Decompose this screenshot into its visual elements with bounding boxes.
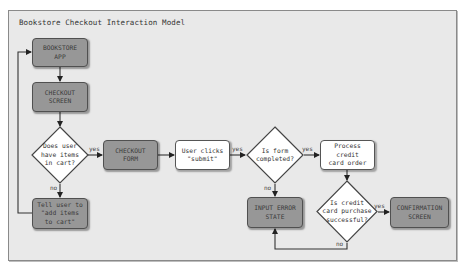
node-bookstore-app: BOOKSTORE APP <box>32 38 88 67</box>
edge-label-clicks-yes: yes <box>232 145 243 152</box>
node-user-clicks-submit: User clicks "submit" <box>175 140 230 170</box>
decision-cc-success-label: Is credit card purchase successful? <box>316 180 378 243</box>
node-input-error-state: INPUT ERROR STATE <box>247 197 303 228</box>
node-confirmation-screen: CONFIRMATION SCREEN <box>390 197 449 228</box>
decision-form-completed: Is form completed? <box>246 126 304 184</box>
node-tell-user: Tell user to "add items to cart" <box>32 198 88 229</box>
edge-label-items-yes: yes <box>89 145 100 152</box>
node-process-credit-card: Process credit card order <box>320 140 375 170</box>
decision-form-completed-label: Is form completed? <box>246 126 304 184</box>
decision-cc-success: Is credit card purchase successful? <box>316 180 378 243</box>
edge-label-form-yes: yes <box>302 145 313 152</box>
edge-label-cc-yes: yes <box>374 202 385 209</box>
decision-has-items-label: Does user have items in cart? <box>31 126 89 184</box>
node-checkout-screen: CHECKOUT SCREEN <box>32 82 88 112</box>
node-checkout-form: CHECKOUT FORM <box>103 140 158 170</box>
edge-loop-to-app <box>18 52 32 213</box>
edge-label-items-no: no <box>50 184 57 191</box>
edge-label-form-no: no <box>264 184 271 191</box>
decision-has-items: Does user have items in cart? <box>31 126 89 184</box>
edge-label-cc-no: no <box>336 240 343 247</box>
